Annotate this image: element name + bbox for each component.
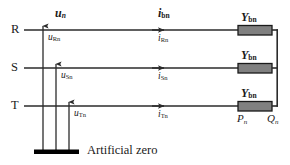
voltage-vector-label: un [55, 7, 66, 20]
admittance-subscript-3: bn [248, 91, 256, 100]
admittance-label-2: Ybn [241, 49, 257, 62]
terminal-label-p: Pn [237, 113, 247, 126]
current-vector-subscript: bn [161, 11, 169, 20]
voltage-subscript-sn: Sn [66, 73, 73, 80]
current-subscript-tn: Tn [161, 112, 168, 119]
current-label-sn: iSn [158, 72, 168, 82]
admittance-label-3: Ybn [241, 87, 257, 100]
phase-label-t: T [11, 99, 19, 112]
phase-label-s: S [11, 61, 18, 74]
voltage-subscript-tn: Tn [79, 111, 86, 118]
current-subscript-sn: Sn [161, 74, 168, 81]
artificial-zero-caption: Artificial zero [87, 144, 157, 157]
admittance-subscript-1: bn [248, 15, 256, 24]
phase-label-r: R [11, 23, 19, 36]
diagram-lineart [0, 0, 290, 165]
admittance-subscript-2: bn [248, 53, 256, 62]
terminal-symbol-q: Q [267, 112, 275, 124]
voltage-vector-subscript: n [62, 11, 66, 20]
current-vector-label: ibn [158, 7, 170, 20]
current-subscript-rn: Rn [161, 36, 169, 43]
voltage-vector-symbol: u [55, 6, 62, 20]
voltage-label-sn: uSn [61, 71, 73, 81]
terminal-subscript-p: n [244, 118, 248, 126]
voltage-label-rn: uRn [48, 33, 60, 43]
voltage-arrows [43, 26, 69, 152]
artificial-zero-bar [34, 150, 79, 155]
terminal-label-q: Qn [267, 113, 278, 126]
voltage-subscript-rn: Rn [53, 35, 61, 42]
return-bus [272, 29, 278, 107]
terminal-subscript-q: n [275, 118, 279, 126]
admittance-label-1: Ybn [241, 11, 257, 24]
current-label-rn: iRn [158, 34, 168, 44]
circuit-diagram-figure: R S T un ibn uRn uSn uTn iRn iSn iTn Ybn… [0, 0, 290, 165]
terminal-symbol-p: P [237, 112, 244, 124]
voltage-label-tn: uTn [74, 109, 86, 119]
current-label-tn: iTn [158, 110, 168, 120]
